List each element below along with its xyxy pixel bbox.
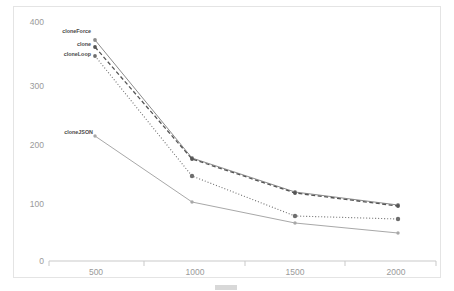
chart-container: 400 300 200 100 0 500 1000 1500 2000 (0, 0, 454, 291)
data-point (293, 221, 296, 224)
series-inline-labels: cloneForce clone cloneLoop cloneJSON (62, 28, 93, 135)
data-point (93, 45, 97, 49)
series-line-cloneLoop (95, 56, 398, 219)
y-tick-label-0: 0 (39, 256, 44, 266)
x-tick-label-500: 500 (89, 267, 103, 277)
y-tick-label-200: 200 (30, 140, 44, 150)
data-point (396, 204, 400, 208)
series-cloneJSON (93, 134, 399, 234)
data-point (396, 231, 399, 234)
data-point (293, 214, 297, 218)
series-label-cloneForce: cloneForce (62, 28, 91, 34)
y-tick-label-400: 400 (30, 17, 44, 27)
data-point (190, 157, 194, 161)
bottom-legend-fragment (215, 285, 237, 290)
x-tick-label-2000: 2000 (387, 267, 406, 277)
data-point (190, 200, 193, 203)
y-axis-tick-labels: 400 300 200 100 0 (30, 17, 44, 266)
x-tick-label-1000: 1000 (186, 267, 205, 277)
series-line-clone (95, 47, 398, 206)
series-label-cloneLoop: cloneLoop (64, 51, 92, 57)
series-line-cloneJSON (95, 136, 398, 233)
series-label-clone: clone (77, 41, 91, 47)
y-tick-label-100: 100 (30, 199, 44, 209)
x-tick-label-1500: 1500 (286, 267, 305, 277)
data-point (93, 54, 97, 58)
data-point (93, 134, 96, 137)
series-clone (93, 45, 400, 208)
x-axis (49, 261, 436, 266)
data-point (190, 174, 194, 178)
data-point (293, 191, 297, 195)
series-label-cloneJSON: cloneJSON (64, 129, 93, 135)
y-tick-label-300: 300 (30, 81, 44, 91)
data-point (93, 38, 97, 42)
data-point (396, 217, 400, 221)
line-chart-svg: 400 300 200 100 0 500 1000 1500 2000 (0, 0, 454, 291)
series-cloneLoop (93, 54, 400, 221)
series-cloneForce (93, 38, 400, 207)
x-axis-tick-labels: 500 1000 1500 2000 (89, 267, 406, 277)
series-line-cloneForce (95, 40, 398, 205)
